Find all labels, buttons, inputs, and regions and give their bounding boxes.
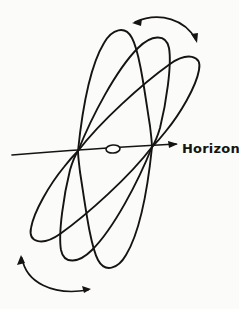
- lower-precession-arc-stroke: [22, 258, 88, 291]
- upper-arc-arrowhead-left: [132, 19, 142, 26]
- upper-arc-arrowhead-right: [191, 33, 198, 43]
- horizon-line: [12, 141, 178, 155]
- horizon-arrowhead: [168, 141, 178, 148]
- orbit-loop-3-lower-lobe: [31, 147, 152, 241]
- diagram-canvas: Horizon: [0, 0, 239, 309]
- lower-arc-arrowhead-right: [82, 286, 91, 293]
- upper-precession-arc-stroke: [135, 17, 196, 40]
- celestial-body-marker: [106, 145, 121, 154]
- lower-precession-arc: [17, 255, 91, 293]
- orbit-loop-1-upper-lobe: [78, 30, 152, 151]
- horizon-label: Horizon: [182, 141, 239, 156]
- astronomy-diagram-figure: Horizon: [0, 0, 239, 309]
- orbit-loop-3-upper-lobe: [78, 57, 199, 151]
- orbit-loop-1-lower-lobe: [78, 147, 152, 268]
